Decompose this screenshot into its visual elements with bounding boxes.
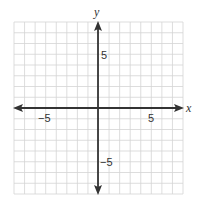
coordinate-plane: x y −5 5 5 −5 <box>0 0 201 207</box>
y-tick-label-neg5: −5 <box>100 156 113 168</box>
y-axis-label: y <box>93 5 100 19</box>
x-tick-label-pos5: 5 <box>148 112 154 124</box>
x-axis-label: x <box>185 101 192 115</box>
x-tick-label-neg5: −5 <box>38 112 51 124</box>
y-tick-label-pos5: 5 <box>101 49 107 61</box>
